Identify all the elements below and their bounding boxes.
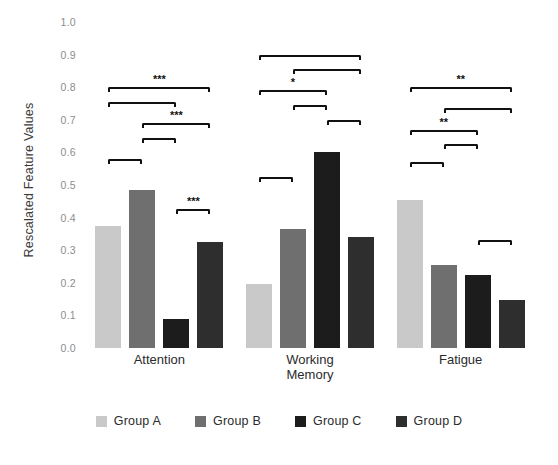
y-axis-tick: 0.0 bbox=[61, 342, 77, 354]
significance-bracket bbox=[410, 130, 478, 135]
plot-area: ************** bbox=[84, 22, 536, 348]
y-axis-tick: 0.1 bbox=[61, 309, 77, 321]
significance-bracket bbox=[478, 240, 512, 245]
bar-chart: Rescalated Feature Values 1.00.90.80.70.… bbox=[0, 0, 558, 465]
bar bbox=[280, 229, 306, 348]
significance-bracket bbox=[142, 123, 210, 128]
significance-stars: *** bbox=[153, 74, 166, 85]
y-axis-ticks: 1.00.90.80.70.60.50.40.30.20.10.0 bbox=[46, 0, 76, 400]
bar bbox=[348, 237, 374, 348]
significance-bracket bbox=[444, 144, 478, 149]
y-axis-tick: 0.4 bbox=[61, 212, 77, 224]
significance-bracket bbox=[142, 138, 176, 143]
significance-bracket bbox=[293, 105, 327, 110]
significance-bracket bbox=[108, 87, 210, 92]
significance-bracket bbox=[293, 69, 361, 74]
y-axis-tick: 0.5 bbox=[61, 179, 77, 191]
x-axis-labels: AttentionWorking MemoryFatigue bbox=[84, 352, 536, 398]
significance-bracket bbox=[444, 108, 512, 113]
y-axis-tick: 0.7 bbox=[61, 114, 77, 126]
legend-item-label: Group D bbox=[414, 414, 463, 428]
significance-stars: *** bbox=[187, 196, 200, 207]
legend-item[interactable]: Group A bbox=[96, 414, 161, 428]
significance-bracket bbox=[259, 177, 293, 182]
y-axis-tick: 1.0 bbox=[61, 16, 77, 28]
legend-swatch-icon bbox=[195, 416, 206, 427]
bar bbox=[314, 152, 340, 348]
x-axis-category-label: Attention bbox=[134, 352, 185, 367]
y-axis-tick: 0.3 bbox=[61, 244, 77, 256]
significance-bracket bbox=[176, 209, 210, 214]
significance-stars: * bbox=[291, 77, 295, 88]
significance-bracket bbox=[108, 159, 142, 164]
legend-item[interactable]: Group B bbox=[195, 414, 261, 428]
legend-swatch-icon bbox=[96, 416, 107, 427]
chart-legend: Group AGroup BGroup CGroup D bbox=[0, 414, 558, 428]
significance-bracket bbox=[410, 162, 444, 167]
legend-swatch-icon bbox=[295, 416, 306, 427]
bar bbox=[197, 242, 223, 348]
legend-item[interactable]: Group D bbox=[396, 414, 463, 428]
y-axis-tick: 0.9 bbox=[61, 49, 77, 61]
significance-bracket bbox=[410, 87, 512, 92]
bar bbox=[129, 190, 155, 348]
legend-swatch-icon bbox=[396, 416, 407, 427]
significance-bracket bbox=[108, 102, 176, 107]
bar bbox=[465, 275, 491, 348]
x-axis-category-label: Fatigue bbox=[439, 352, 482, 367]
significance-bracket bbox=[259, 90, 327, 95]
y-axis-label: Rescalated Feature Values bbox=[14, 0, 44, 360]
significance-stars: ** bbox=[439, 117, 448, 128]
x-axis-category-label: Working Memory bbox=[286, 352, 333, 382]
bar bbox=[499, 300, 525, 348]
y-axis-label-text: Rescalated Feature Values bbox=[22, 103, 36, 258]
bar bbox=[397, 200, 423, 348]
legend-item-label: Group A bbox=[114, 414, 161, 428]
legend-item[interactable]: Group C bbox=[295, 414, 362, 428]
significance-bracket bbox=[259, 55, 361, 60]
legend-item-label: Group B bbox=[213, 414, 261, 428]
significance-bracket bbox=[327, 120, 361, 125]
bar bbox=[163, 319, 189, 348]
bar bbox=[95, 226, 121, 348]
significance-stars: *** bbox=[170, 110, 183, 121]
y-axis-tick: 0.2 bbox=[61, 277, 77, 289]
bar bbox=[246, 284, 272, 348]
bar bbox=[431, 265, 457, 348]
significance-stars: ** bbox=[456, 74, 465, 85]
legend-item-label: Group C bbox=[313, 414, 362, 428]
y-axis-tick: 0.6 bbox=[61, 146, 77, 158]
y-axis-tick: 0.8 bbox=[61, 81, 77, 93]
